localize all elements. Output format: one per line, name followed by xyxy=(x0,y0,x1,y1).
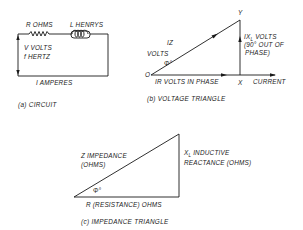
reactance-label: XL INDUCTIVE xyxy=(183,149,230,158)
reactance-ohms-label: REACTANCE (OHMS) xyxy=(184,159,251,167)
vertex-o-label: O xyxy=(145,71,150,78)
vertex-x-label: X xyxy=(237,79,243,86)
impedance-label: Z IMPEDANCE xyxy=(80,152,127,159)
impedance-angle-label: Φ° xyxy=(93,187,102,194)
inductor-symbol xyxy=(71,30,90,38)
voltage-label: V VOLTS xyxy=(24,44,52,51)
resistor-symbol xyxy=(29,32,49,37)
iz-label: IZ xyxy=(167,39,174,46)
diagram-canvas: R OHMS L HENRYS V VOLTS f HERTZ I AMPERE… xyxy=(0,0,303,230)
arrow-head-icon xyxy=(16,70,19,75)
phase-angle-label: Φ° xyxy=(164,60,173,67)
ir-volts-label: IR VOLTS IN PHASE xyxy=(155,78,219,85)
frequency-label: f HERTZ xyxy=(24,53,51,60)
circuit-diagram: R OHMS L HENRYS V VOLTS f HERTZ I AMPERE… xyxy=(16,21,108,109)
iz-volts-label: VOLTS xyxy=(147,50,169,57)
impedance-triangle: Z IMPEDANCE (OHMS) Φ° XL INDUCTIVE REACT… xyxy=(74,134,251,226)
vertex-y-label: Y xyxy=(238,9,243,16)
phase-label: PHASE) xyxy=(245,49,270,57)
inductor-label: L HENRYS xyxy=(70,21,104,28)
current-axis-label: CURRENT xyxy=(253,78,287,85)
arrow-head-icon xyxy=(270,73,276,76)
resistance-label: R (RESISTANCE) OHMS xyxy=(86,201,162,209)
current-label: I AMPERES xyxy=(36,79,73,86)
voltage-triangle: Y O X IZ VOLTS Φ° IR VOLTS IN PHASE CURR… xyxy=(145,9,287,103)
voltage-triangle-caption: (b) VOLTAGE TRIANGLE xyxy=(147,95,226,103)
circuit-caption: (a) CIRCUIT xyxy=(18,101,58,109)
impedance-triangle-caption: (c) IMPEDANCE TRIANGLE xyxy=(81,218,169,226)
impedance-ohms-label: (OHMS) xyxy=(81,161,106,169)
resistor-label: R OHMS xyxy=(26,21,53,28)
arrow-head-icon xyxy=(212,34,219,39)
out-of-phase-label: (90° OUT OF xyxy=(244,41,285,49)
arrow-head-icon xyxy=(238,36,241,42)
arrow-head-icon xyxy=(221,73,227,76)
arrow-head-icon xyxy=(16,35,19,40)
